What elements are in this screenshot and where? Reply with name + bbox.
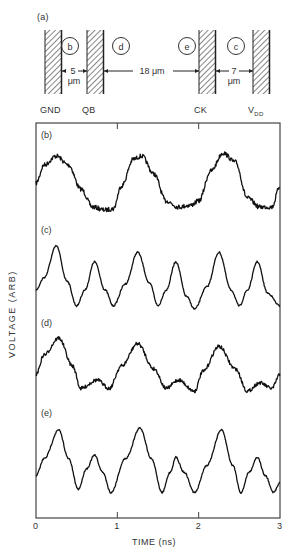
trace-e [36,428,280,494]
panel-label-d: (d) [41,318,52,328]
panel-label-c: (c) [41,225,52,235]
panel-label-e: (e) [41,408,52,418]
x-tick-label: 2 [196,521,201,531]
x-tick-label: 3 [277,521,282,531]
trace-b [36,152,280,212]
trace-d [36,337,280,393]
plot-frame [36,123,280,518]
trace-c [36,246,280,310]
waveform-plot [0,0,297,560]
y-axis-label: VOLTAGE (ARB) [7,288,17,358]
panel-label-b: (b) [41,130,52,140]
x-tick-label: 1 [114,521,119,531]
x-tick-label: 0 [33,521,38,531]
x-axis-label: TIME (ns) [132,537,176,547]
